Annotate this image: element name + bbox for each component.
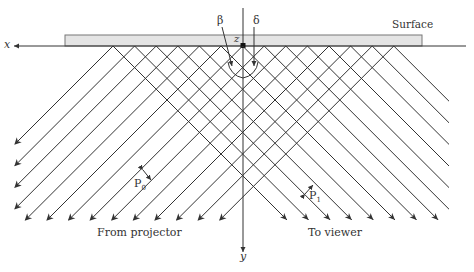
p0-label: P0 bbox=[134, 177, 146, 190]
reflected-ray bbox=[113, 46, 287, 220]
incident-ray bbox=[15, 46, 156, 187]
incident-ray bbox=[47, 46, 221, 220]
surface-label: Surface bbox=[392, 18, 433, 30]
incident-ray bbox=[25, 46, 199, 220]
incident-ray bbox=[133, 46, 307, 220]
diagram-canvas: x y z Surface β δ P0 P1 From projector T… bbox=[0, 0, 474, 272]
incident-ray bbox=[112, 46, 286, 220]
incident-ray bbox=[15, 46, 113, 144]
reflected-ray bbox=[264, 46, 438, 220]
incident-ray bbox=[90, 46, 264, 220]
incident-ray bbox=[155, 46, 329, 220]
reflected-ray bbox=[329, 46, 449, 166]
incident-ray bbox=[15, 46, 135, 166]
reflected-ray bbox=[307, 46, 449, 188]
beta-label: β bbox=[217, 14, 223, 27]
reflected-ray bbox=[178, 46, 352, 220]
incident-ray bbox=[220, 46, 394, 220]
x-axis-label: x bbox=[4, 38, 10, 51]
p1-subscript: 1 bbox=[316, 196, 320, 204]
reflected-ray bbox=[286, 46, 449, 209]
delta-label: δ bbox=[253, 14, 260, 27]
reflected-ray bbox=[221, 46, 395, 220]
incident-ray bbox=[177, 46, 351, 220]
incident-ray bbox=[15, 46, 178, 209]
to-viewer-label: To viewer bbox=[308, 226, 362, 239]
incident-ray bbox=[198, 46, 372, 220]
y-axis-label: y bbox=[240, 250, 246, 263]
reflected-ray bbox=[394, 46, 449, 101]
z-point-label: z bbox=[234, 33, 239, 44]
incident-ray bbox=[69, 46, 243, 220]
reflected-ray bbox=[135, 46, 309, 220]
from-projector-label: From projector bbox=[97, 226, 182, 239]
reflected-ray bbox=[351, 46, 449, 144]
p1-label: P1 bbox=[309, 189, 321, 202]
p0-subscript: 0 bbox=[141, 184, 145, 192]
reflected-ray bbox=[372, 46, 449, 123]
reflected-ray bbox=[243, 46, 417, 220]
reflected-ray bbox=[199, 46, 373, 220]
